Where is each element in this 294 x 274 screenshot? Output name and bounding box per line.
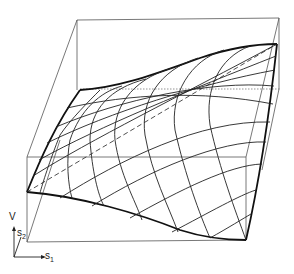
- s1-axis-label: s1: [45, 250, 54, 263]
- v-axis-label: V: [9, 211, 16, 222]
- s2-label-sub: 2: [22, 233, 26, 240]
- s1-label-sub: 1: [50, 256, 54, 263]
- v-arrowhead-icon: [12, 226, 16, 231]
- surface-plot: [0, 0, 294, 274]
- dashed-diagonal: [27, 44, 277, 192]
- surface-edges: [27, 44, 277, 240]
- s2-axis-arrow: [14, 237, 21, 257]
- s2-axis-label: s2: [17, 227, 26, 240]
- bounding-box: [27, 18, 280, 242]
